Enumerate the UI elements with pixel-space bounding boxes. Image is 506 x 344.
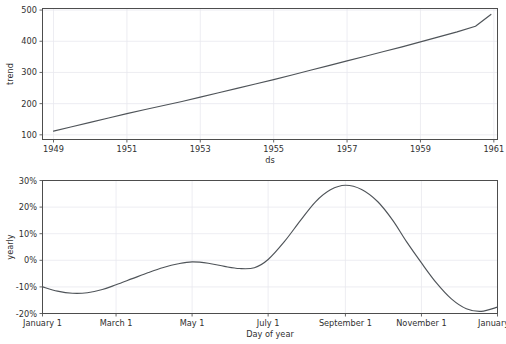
y-tick-label: 400: [21, 36, 37, 46]
yearly-chart-svg: -20%-10%0%10%20%30%January 1March 1May 1…: [0, 168, 506, 344]
yearly-chart-panel: -20%-10%0%10%20%30%January 1March 1May 1…: [0, 168, 506, 344]
y-tick-label: 300: [21, 67, 37, 77]
trend-chart-svg: 1002003004005001949195119531955195719591…: [0, 0, 506, 168]
axis-spines: [43, 181, 498, 314]
y-tick-label: 30%: [19, 176, 37, 186]
axis-ticks: 1002003004005001949195119531955195719591…: [21, 5, 504, 153]
x-tick-label: 1953: [190, 144, 211, 154]
axis-ticks: -20%-10%0%10%20%30%January 1March 1May 1…: [16, 176, 506, 328]
y-tick-label: 500: [21, 5, 37, 15]
x-tick-label: 1961: [483, 144, 504, 154]
axis-spines: [43, 9, 498, 140]
y-tick-label: 100: [21, 130, 37, 140]
x-tick-label: January 1: [477, 318, 506, 328]
gridlines: [43, 181, 498, 314]
data-series-line: [43, 185, 498, 311]
y-tick-label: 20%: [19, 202, 37, 212]
x-axis-title: Day of year: [246, 329, 294, 339]
y-tick-label: 200: [21, 99, 37, 109]
y-tick-label: 10%: [19, 229, 37, 239]
x-tick-label: 1951: [116, 144, 137, 154]
x-axis-title: ds: [265, 155, 274, 165]
prophet-components-figure: 1002003004005001949195119531955195719591…: [0, 0, 506, 344]
x-tick-label: 1949: [43, 144, 64, 154]
x-tick-label: May 1: [180, 318, 205, 328]
x-tick-label: July 1: [256, 318, 280, 328]
y-tick-label: -10%: [16, 282, 37, 292]
y-axis-title: yearly: [5, 234, 15, 260]
x-tick-label: 1959: [410, 144, 431, 154]
x-tick-label: January 1: [22, 318, 62, 328]
y-tick-label: 0%: [24, 255, 37, 265]
x-tick-label: September 1: [319, 318, 372, 328]
trend-chart-panel: 1002003004005001949195119531955195719591…: [0, 0, 506, 168]
x-tick-label: March 1: [100, 318, 133, 328]
x-tick-label: 1957: [337, 144, 358, 154]
y-axis-title: trend: [5, 63, 15, 85]
gridlines: [43, 9, 498, 140]
x-tick-label: 1955: [263, 144, 284, 154]
plot-frame: [43, 9, 498, 140]
x-tick-label: November 1: [396, 318, 446, 328]
plot-frame: [43, 181, 498, 314]
